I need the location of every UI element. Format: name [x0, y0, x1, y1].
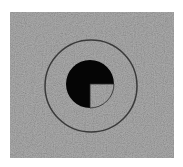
stimulus-figure [0, 0, 183, 167]
noise-texture [10, 12, 174, 158]
